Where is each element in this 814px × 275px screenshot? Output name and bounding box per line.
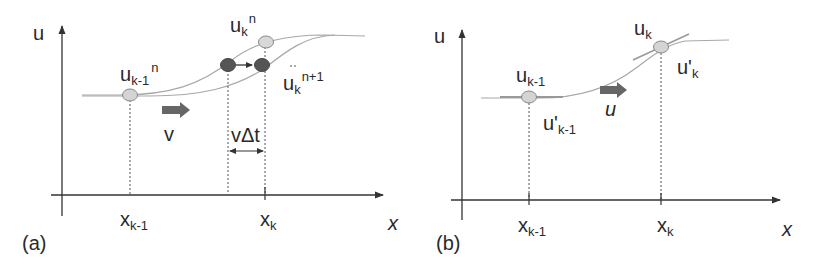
point-u-k-n [259, 36, 274, 48]
point-departure [221, 59, 236, 72]
point-u-km1-n [123, 89, 138, 101]
label-du-k: u'k [677, 56, 699, 81]
label-u-km1: uk-1 [516, 64, 545, 89]
label-u-k: uk [634, 17, 652, 42]
point-u-km1 [522, 91, 537, 103]
panel-b: u x (b) uk-1 uk u'k-1 u'k u xk-1 xk [434, 17, 793, 254]
label-u-k-np1: ukn+1 [283, 69, 324, 97]
axis-x-label: x [781, 218, 793, 240]
panel-label: (a) [22, 232, 46, 254]
advection-diagram: u x (a) uk-1n ukn ukn+1 v vΔt xk-1 xk [0, 0, 814, 275]
axis-x-label: x [387, 212, 399, 234]
axis-y-label: u [434, 25, 445, 47]
velocity-label: v [164, 123, 174, 145]
tick-label-xk: xk [657, 214, 674, 239]
point-u-k [654, 41, 669, 53]
panel-a: u x (a) uk-1n ukn ukn+1 v vΔt xk-1 xk [22, 11, 399, 254]
displacement-label: vΔt [231, 124, 260, 146]
label-du-km1: u'k-1 [543, 112, 576, 137]
tick-label-xkm1: xk-1 [120, 208, 148, 233]
velocity-arrow-icon [162, 102, 190, 118]
label-u-k-n: ukn [230, 11, 256, 39]
tick-label-xk: xk [260, 208, 277, 233]
label-u-km1-n: uk-1n [120, 60, 158, 88]
axis-y-label: u [33, 22, 44, 44]
velocity-label: u [605, 98, 616, 120]
panel-label: (b) [436, 232, 460, 254]
velocity-arrow-icon [600, 82, 627, 98]
point-u-k-np1 [255, 59, 270, 72]
tick-label-xkm1: xk-1 [518, 214, 546, 239]
